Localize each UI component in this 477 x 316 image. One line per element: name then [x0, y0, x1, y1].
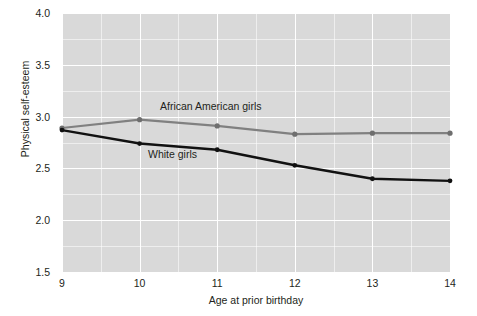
data-point [60, 128, 65, 133]
data-point [137, 141, 142, 146]
y-axis-tick-label: 4.0 [14, 8, 50, 19]
line-african-american-girls [62, 120, 450, 134]
x-axis-tick-label: 14 [430, 278, 470, 289]
x-axis-tick-label: 9 [42, 278, 82, 289]
x-axis-tick-label: 10 [120, 278, 160, 289]
x-axis-tick-label: 13 [352, 278, 392, 289]
series-label-white-girls: White girls [148, 149, 197, 160]
series-layer [62, 13, 450, 272]
y-axis-title: Physical self-esteem [19, 39, 31, 179]
gridline-vertical [450, 13, 451, 272]
chart-figure: African American girls White girls 4.03.… [0, 0, 477, 316]
line-white-girls [62, 130, 450, 181]
y-axis-tick-label: 1.5 [14, 267, 50, 278]
y-axis-tick-label: 2.0 [14, 215, 50, 226]
gridline-horizontal [62, 272, 450, 273]
data-point [292, 163, 297, 168]
series-label-african-american-girls: African American girls [160, 101, 262, 112]
data-point [292, 132, 297, 137]
data-point [215, 123, 220, 128]
x-axis-tick-label: 12 [275, 278, 315, 289]
data-point [370, 131, 375, 136]
x-axis-title: Age at prior birthday [62, 294, 450, 306]
data-point [215, 147, 220, 152]
x-axis-tick-label: 11 [197, 278, 237, 289]
data-point [447, 131, 452, 136]
data-point [448, 178, 453, 183]
points-white-girls [60, 128, 453, 184]
data-point [370, 176, 375, 181]
data-point [137, 117, 142, 122]
